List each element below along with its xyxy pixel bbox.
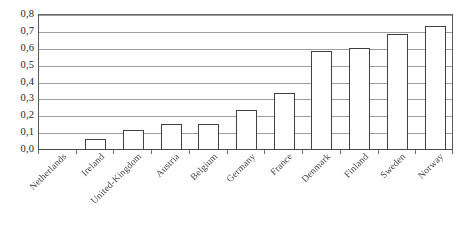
bar (387, 34, 408, 149)
x-axis-category-label: Germany (225, 152, 258, 185)
y-axis-tick-label: 0,7 (21, 26, 34, 37)
y-axis-tick-label: 0,0 (21, 144, 34, 155)
bar (85, 139, 106, 149)
bar (425, 26, 446, 149)
x-axis-category-text: Austria (155, 152, 183, 180)
bar-chart: 0,00,10,20,30,40,50,60,70,8 NetherlandsI… (0, 0, 457, 228)
x-axis-category-label: Austria (155, 152, 183, 180)
y-axis-tick-label: 0,4 (21, 76, 34, 87)
x-axis-category-label: Sweden (379, 152, 408, 181)
bar (349, 48, 370, 149)
y-axis-tick-label: 0,8 (21, 9, 34, 20)
x-axis-category-text: Ireland (80, 152, 107, 179)
x-axis-category-label: Ireland (80, 152, 107, 179)
y-axis-tick-label: 0,1 (21, 127, 34, 138)
bar (236, 110, 257, 149)
bar (274, 93, 295, 149)
x-axis-category-text: Norway (417, 152, 446, 181)
x-axis-category-label: Denmark (300, 152, 333, 185)
bar (311, 51, 332, 149)
x-axis-category-label: Belgium (189, 152, 220, 183)
x-axis-category-text: Finland (342, 152, 370, 180)
x-axis-category-label: Norway (417, 152, 446, 181)
x-axis-category-text: France (269, 152, 295, 178)
x-axis-category-label: France (269, 152, 295, 178)
x-axis-category-text: Germany (225, 152, 258, 185)
x-axis-category-text: Sweden (379, 152, 408, 181)
bar (123, 130, 144, 149)
bar (198, 124, 219, 149)
x-axis: NetherlandsIrelandUnited-KingdomAustriaB… (38, 152, 453, 228)
bars-layer (39, 15, 452, 149)
y-axis-tick-label: 0,2 (21, 110, 34, 121)
y-axis-tick-label: 0,5 (21, 59, 34, 70)
x-axis-category-text: Belgium (189, 152, 220, 183)
plot-area (38, 14, 453, 149)
x-axis-category-text: Denmark (300, 152, 333, 185)
y-axis-tick-label: 0,3 (21, 93, 34, 104)
y-axis-tick-label: 0,6 (21, 43, 34, 54)
x-axis-category-label: Finland (342, 152, 370, 180)
bar (161, 124, 182, 149)
y-axis: 0,00,10,20,30,40,50,60,70,8 (0, 0, 38, 160)
